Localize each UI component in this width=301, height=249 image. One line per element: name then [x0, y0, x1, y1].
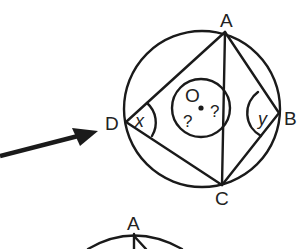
label-A: A [220, 10, 233, 31]
angle-label-O-right: ? [210, 102, 219, 121]
centre-point-O [198, 105, 203, 110]
label-O: O [185, 85, 200, 106]
angle-arc-x [147, 103, 156, 136]
diagonal-AC [222, 32, 225, 185]
label-B: B [284, 108, 297, 129]
second-figure-label-A: A [127, 213, 140, 234]
angle-label-y: y [256, 109, 268, 129]
angle-label-O-left: ? [183, 112, 192, 131]
angle-label-x: x [134, 111, 145, 131]
pointer-arrow [0, 128, 98, 156]
second-figure-line-2 [134, 236, 146, 249]
label-D: D [105, 113, 119, 134]
circle-theorem-diagram: A B C D O x y ? ? A [0, 0, 301, 249]
label-C: C [215, 188, 229, 209]
